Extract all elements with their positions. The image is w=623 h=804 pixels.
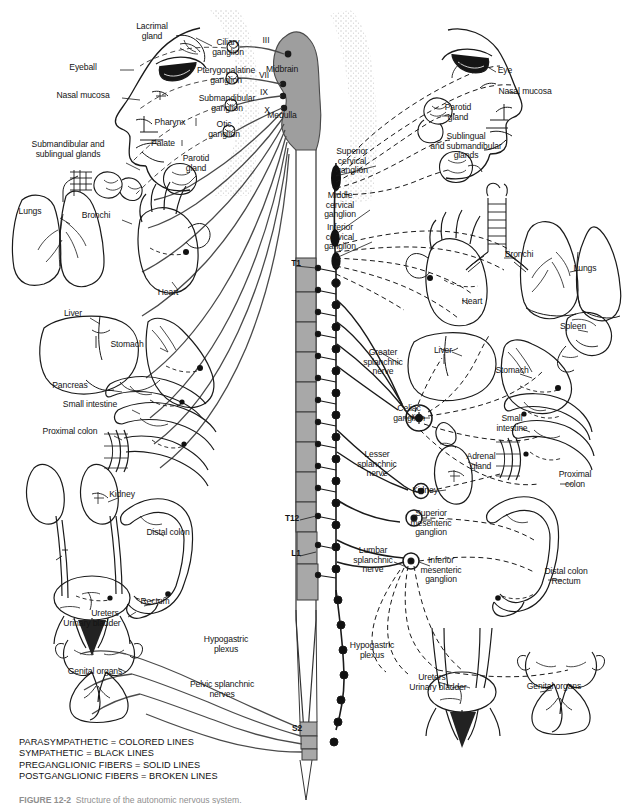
parasympathetic-nerve-label-pelvic-splanchnic-nerves: Pelvic splanchnic nerves bbox=[190, 680, 254, 699]
parasympathetic-target-label-bronchi: Bronchi bbox=[82, 211, 110, 221]
cranial-nerve-label-x: X bbox=[264, 106, 270, 116]
parasympathetic-ganglion-label-submandibular-ganglion: Submandibular ganglion bbox=[199, 94, 256, 113]
legend: PARASYMPATHETIC = COLORED LINES SYMPATHE… bbox=[19, 737, 218, 782]
sympathetic-postganglionic-thorax bbox=[336, 231, 510, 318]
sympathetic-nerve-label-lesser-splanchnic-nerve: Lesser splanchnic nerve bbox=[357, 450, 397, 479]
spinal-segment-label-t1: T1 bbox=[291, 259, 301, 269]
organ-lungs-left bbox=[12, 170, 104, 287]
parasympathetic-target-label-parotid-gland: Parotid gland bbox=[183, 154, 210, 173]
sympathetic-target-label-adrenal-gland: Adrenal gland bbox=[467, 452, 496, 471]
sympathetic-target-label-sublingual-and-submandibular-glands: Sublingual and submandibular glands bbox=[430, 132, 501, 161]
cranial-nerve-label-vii: VII bbox=[259, 71, 269, 81]
parasympathetic-target-label-nasal-mucosa: Nasal mucosa bbox=[56, 91, 109, 101]
legend-line-sympathetic: SYMPATHETIC = BLACK LINES bbox=[19, 748, 218, 759]
parasympathetic-nerve-label-hypogastric-plexus: Hypogastric plexus bbox=[204, 635, 248, 654]
parasympathetic-target-label-heart: Heart bbox=[158, 288, 179, 298]
sympathetic-ganglion-label-celiac-ganglion: Celiac ganglion bbox=[393, 404, 425, 423]
white-rami bbox=[315, 265, 336, 578]
organ-colon-right bbox=[487, 497, 559, 617]
sympathetic-target-label-kidney: Kidney bbox=[412, 486, 438, 496]
parasympathetic-ganglion-label-pterygopalatine-ganglion: Pterygopalatine ganglion bbox=[197, 66, 255, 85]
parasympathetic-target-label-pharynx: Pharynx bbox=[155, 118, 186, 128]
parasympathetic-target-label-rectum: Rectum bbox=[140, 597, 169, 607]
parasympathetic-target-label-eyeball: Eyeball bbox=[69, 63, 97, 73]
parasympathetic-target-label-pancreas: Pancreas bbox=[52, 381, 88, 391]
spinal-segment-label-l1: L1 bbox=[291, 549, 301, 559]
spinal-segment-label-t12: T12 bbox=[285, 514, 299, 524]
sympathetic-target-label-proximal-colon: Proximal colon bbox=[559, 470, 592, 489]
parasympathetic-target-label-kidney: Kidney bbox=[109, 490, 135, 500]
sympathetic-nerve-label-lumbar-splanchnic-nerve: Lumbar splanchnic nerve bbox=[353, 546, 393, 575]
organ-genital-right bbox=[517, 652, 604, 735]
cns-label-medulla: Medulla bbox=[267, 111, 296, 121]
sympathetic-target-label-urinary-bladder: Urinary bladder bbox=[409, 683, 466, 693]
parasympathetic-ganglion-label-otic-ganglion: Otic ganglion bbox=[208, 120, 240, 139]
figure-root: MidbrainMedullaIIIVIIIXXT1T12L1S2Ciliary… bbox=[0, 0, 623, 804]
parasympathetic-target-label-proximal-colon: Proximal colon bbox=[43, 427, 98, 437]
organ-genital-left bbox=[55, 640, 142, 723]
cranial-nerve-label-iii: III bbox=[263, 36, 270, 46]
sympathetic-target-label-liver: Liver bbox=[434, 346, 452, 356]
sympathetic-ganglion-label-middle-cervical-ganglion: Middle cervical ganglion bbox=[324, 191, 356, 220]
sympathetic-ganglion-label-superior-mesenteric-ganglion: Superior mesenteric ganglion bbox=[410, 509, 451, 538]
legend-line-preganglionic: PREGANGLIONIC FIBERS = SOLID LINES bbox=[19, 760, 218, 771]
organ-intestine-right bbox=[496, 394, 594, 480]
parasympathetic-ganglion-label-ciliary-ganglion: Ciliary ganglion bbox=[212, 38, 244, 57]
parasympathetic-target-label-palate: Palate bbox=[151, 139, 175, 149]
parasympathetic-target-label-lacrimal-gland: Lacrimal gland bbox=[136, 22, 168, 41]
sympathetic-nerve-label-hypogastric-plexus: Hypogastric plexus bbox=[350, 641, 394, 660]
figure-caption: FIGURE 12-2 Structure of the autonomic n… bbox=[19, 795, 242, 804]
legend-line-postganglionic: POSTGANGLIONIC FIBERS = BROKEN LINES bbox=[19, 771, 218, 782]
sympathetic-target-label-heart: Heart bbox=[462, 297, 483, 307]
sympathetic-target-label-nasal-mucosa: Nasal mucosa bbox=[498, 87, 551, 97]
organ-stomach-left bbox=[146, 318, 214, 407]
sympathetic-target-label-lungs: Lungs bbox=[574, 264, 597, 274]
sympathetic-postganglionic-abdomen bbox=[372, 334, 568, 677]
sympathetic-target-label-genital-organs: Genital organs bbox=[527, 682, 582, 692]
legend-line-parasympathetic: PARASYMPATHETIC = COLORED LINES bbox=[19, 737, 218, 748]
sympathetic-target-label-parotid-gland: Parotid gland bbox=[445, 103, 472, 122]
parasympathetic-target-label-small-intestine: Small intestine bbox=[63, 400, 117, 410]
sympathetic-ganglion-label-inferior-mesenteric-ganglion: Inferior mesenteric ganglion bbox=[420, 556, 461, 585]
spinal-segment-label-s2: S2 bbox=[292, 724, 302, 734]
sympathetic-target-label-bronchi: Bronchi bbox=[505, 250, 533, 260]
brainstem bbox=[274, 32, 321, 150]
sympathetic-ganglion-label-inferior-cervical-ganglion: Inferior cervical ganglion bbox=[324, 223, 356, 252]
cns-label-midbrain: Midbrain bbox=[266, 65, 298, 75]
sympathetic-target-label-stomach: Stomach bbox=[495, 366, 528, 376]
organ-liver-right bbox=[408, 333, 496, 401]
sympathetic-ganglion-label-superior-cervical-ganglion: Superior cervical ganglion bbox=[336, 147, 368, 176]
figure-caption-text: Structure of the autonomic nervous syste… bbox=[71, 795, 242, 804]
parasympathetic-target-label-lungs: Lungs bbox=[19, 207, 42, 217]
organ-heart-right bbox=[406, 210, 487, 326]
parasympathetic-target-label-stomach: Stomach bbox=[110, 340, 143, 350]
parasympathetic-target-label-liver: Liver bbox=[64, 309, 82, 319]
organ-lungs-right bbox=[521, 222, 621, 321]
sympathetic-target-label-spleen: Spleen bbox=[560, 322, 586, 332]
spinal-cord bbox=[296, 120, 318, 800]
organ-heart-left bbox=[138, 182, 210, 293]
parasympathetic-target-label-genital-organs: Genital organs bbox=[68, 667, 123, 677]
sympathetic-nerve-label-greater-splanchnic-nerve: Greater splanchnic nerve bbox=[363, 348, 403, 377]
sympathetic-target-label-eye: Eye bbox=[498, 66, 513, 76]
cranial-nerve-label-ix: IX bbox=[260, 88, 268, 98]
sympathetic-target-label-distal-colon-rectum: Distal colon Rectum bbox=[544, 567, 587, 586]
sympathetic-target-label-small-intestine: Small intestine bbox=[496, 414, 527, 433]
figure-caption-number: FIGURE 12-2 bbox=[19, 795, 71, 804]
organ-stomach-right bbox=[501, 340, 571, 414]
parasympathetic-target-label-urinary-bladder: Urinary bladder bbox=[63, 619, 120, 629]
parasympathetic-target-label-distal-colon: Distal colon bbox=[146, 528, 189, 538]
organ-pancreas-intestine-left bbox=[104, 377, 216, 486]
parasympathetic-target-label-submandibular-and-sublingual-glands: Submandibular and sublingual glands bbox=[32, 140, 105, 159]
